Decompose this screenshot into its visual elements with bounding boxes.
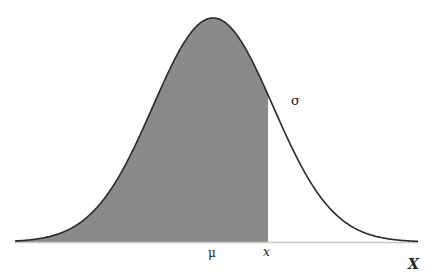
- sigma-label: σ: [291, 93, 300, 108]
- normal-distribution-figure: [0, 0, 435, 279]
- mean-label: μ: [208, 246, 216, 260]
- x-axis-label: X: [408, 256, 419, 272]
- x-value-label: x: [263, 245, 270, 259]
